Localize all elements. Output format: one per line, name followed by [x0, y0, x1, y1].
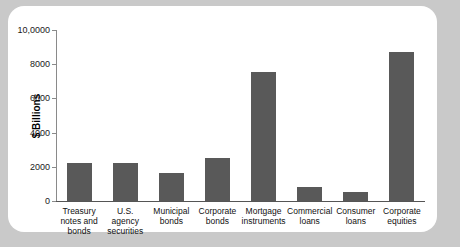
x-axis-category-label: Municipalbonds — [148, 206, 194, 226]
category-label-line: notes and — [56, 216, 102, 226]
category-label-line: U.S. agency — [102, 206, 148, 226]
page-background: $ Billions 0200040006000800010,0000 Trea… — [0, 0, 460, 247]
category-label-line: bonds — [148, 216, 194, 226]
y-tick-mark — [52, 167, 56, 168]
y-tick-label: 6000 — [30, 94, 50, 103]
y-tick-mark — [52, 133, 56, 134]
y-axis-line — [56, 30, 57, 201]
bar — [343, 192, 368, 201]
y-tick-mark — [52, 64, 56, 65]
y-tick-label: 4000 — [30, 128, 50, 137]
bar — [251, 72, 276, 201]
bar — [113, 163, 138, 201]
category-label-line: loans — [333, 216, 379, 226]
plot-area: $ Billions 0200040006000800010,0000 Trea… — [56, 30, 425, 201]
category-label-line: Commercial — [287, 206, 333, 216]
y-tick-mark — [52, 30, 56, 31]
x-axis-category-label: Mortgageinstruments — [241, 206, 287, 226]
bar-chart: $ Billions 0200040006000800010,0000 Trea… — [8, 6, 437, 232]
x-axis-category-label: Consumerloans — [333, 206, 379, 226]
category-label-line: Mortgage — [241, 206, 287, 216]
x-axis-category-label: U.S. agencysecurities — [102, 206, 148, 236]
category-label-line: securities — [102, 226, 148, 236]
bar — [159, 173, 184, 201]
y-tick-label: 2000 — [30, 162, 50, 171]
chart-card: $ Billions 0200040006000800010,0000 Trea… — [8, 6, 437, 232]
y-tick-mark — [52, 98, 56, 99]
category-label-line: Municipal — [148, 206, 194, 216]
y-tick-label: 10,0000 — [17, 26, 50, 35]
category-label-line: bonds — [194, 216, 240, 226]
y-tick-label: 0 — [45, 197, 50, 206]
category-label-line: Corporate — [194, 206, 240, 216]
category-label-line: bonds — [56, 226, 102, 236]
x-axis-category-label: Corporateequities — [379, 206, 425, 226]
bar — [205, 158, 230, 201]
category-label-line: instruments — [241, 216, 287, 226]
x-axis-category-label: Treasurynotes andbonds — [56, 206, 102, 236]
y-tick-mark — [52, 201, 56, 202]
category-label-line: Consumer — [333, 206, 379, 216]
category-label-line: Corporate — [379, 206, 425, 216]
bar — [67, 163, 92, 201]
category-label-line: loans — [287, 216, 333, 226]
category-label-line: Treasury — [56, 206, 102, 216]
category-label-line: equities — [379, 216, 425, 226]
x-axis-category-label: Corporatebonds — [194, 206, 240, 226]
bar — [389, 52, 414, 201]
bar — [297, 187, 322, 201]
x-axis-category-label: Commercialloans — [287, 206, 333, 226]
x-axis-line — [56, 201, 425, 202]
y-tick-label: 8000 — [30, 60, 50, 69]
